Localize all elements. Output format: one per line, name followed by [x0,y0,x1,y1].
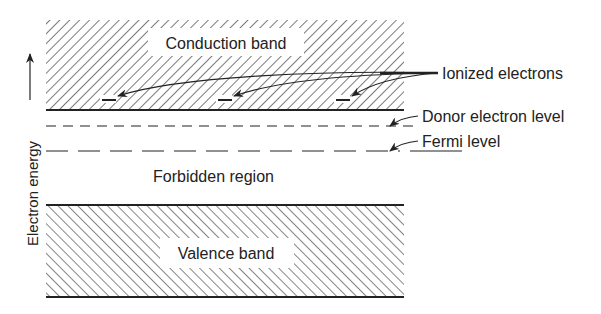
fermi-level-label: Fermi level [422,133,500,150]
valence-band-label: Valence band [178,245,275,262]
energy-axis: Electron energy [24,54,41,246]
conduction-band: Conduction band Ionized electrons [46,20,563,110]
fermi-level: Fermi level [46,133,500,151]
energy-axis-label: Electron energy [24,140,41,246]
conduction-band-label: Conduction band [166,35,287,52]
fermi-level-arrow-icon [390,141,418,151]
valence-band: Valence band [46,205,404,297]
donor-level-arrow-icon [390,116,418,126]
donor-level-label: Donor electron level [422,108,564,125]
forbidden-region-label: Forbidden region [153,168,274,185]
energy-band-diagram: Electron energy Conduction band Ionized … [0,0,601,314]
ionized-electrons-label: Ionized electrons [442,65,563,82]
